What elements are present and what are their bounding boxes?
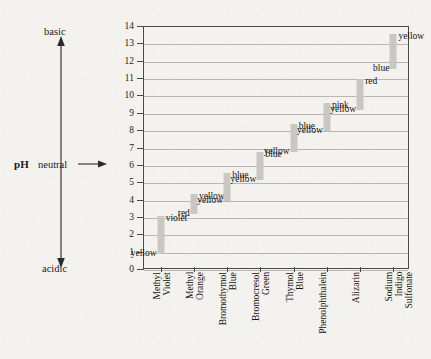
y-tick-label: 7 [129,143,134,153]
basic-label: basic [44,26,66,37]
y-tick-label: 3 [129,212,134,222]
y-tick-label: 6 [129,160,134,170]
y-tick-label: 14 [125,21,135,31]
y-tick-label: 12 [125,56,135,66]
x-axis-category-label: Alizarin [352,272,362,303]
y-tick-label: 5 [129,177,134,187]
y-tick-label: 11 [125,73,134,83]
neutral-pointer-arrow-icon [0,20,108,285]
x-axis-category-label: Thymol Blue [286,272,306,302]
y-tick-label: 4 [129,195,134,205]
x-axis-category-label: Phenolphthalein [319,272,329,334]
x-axis-labels: Methyl VioletMethyl OrangeBromothymol Bl… [143,272,409,359]
y-tick-mark [137,269,144,270]
y-tick-label: 9 [129,108,134,118]
x-axis-ticks [144,27,408,268]
y-axis-ticks: 01234567891011121314 [108,26,144,269]
y-tick-label: 10 [125,90,135,100]
x-axis-category-label: Bromocresol Green [252,272,272,321]
acidic-label: acidic [42,263,67,274]
ph-axis-legend: basic pH neutral acidic [0,20,108,285]
y-tick-label: 0 [129,264,134,274]
x-axis-category-label: Methyl Violet [153,272,173,299]
x-axis-category-label: Bromothymol Blue [219,272,239,325]
x-axis-category-label: Sodium Indigo Sulfonate [385,272,415,308]
y-tick-label: 8 [129,125,134,135]
chart-plot-area: yellowvioletredyellowyellowblueyellowblu… [143,26,409,269]
x-axis-category-label: Methyl Orange [186,272,206,300]
neutral-label: neutral [38,159,67,170]
y-tick-label: 2 [129,229,134,239]
gridline [144,270,408,271]
ph-title: pH [14,158,29,170]
y-tick-label: 13 [125,38,135,48]
